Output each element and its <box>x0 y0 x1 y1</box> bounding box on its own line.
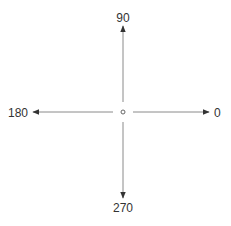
label-180-degrees: 180 <box>8 106 28 120</box>
center-point <box>121 110 125 114</box>
label-90-degrees: 90 <box>116 11 130 25</box>
label-270-degrees: 270 <box>113 201 133 215</box>
angle-direction-diagram: 0 90 180 270 <box>0 0 231 226</box>
label-0-degrees: 0 <box>214 106 221 120</box>
